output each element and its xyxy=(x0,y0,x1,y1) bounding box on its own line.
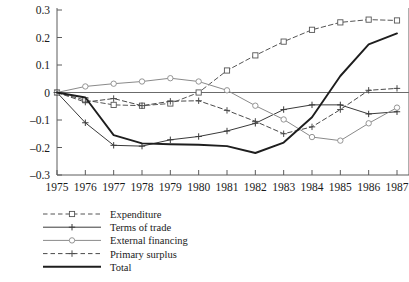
chart-canvas: 0.30.20.10–0.1–0.2–0.3197519761977197819… xyxy=(0,0,409,282)
marker-open-square xyxy=(69,211,74,216)
y-tick-label: 0.2 xyxy=(36,32,51,44)
marker-open-square xyxy=(224,68,229,73)
legend-item-total: Total xyxy=(43,262,132,273)
x-tick-label: 1977 xyxy=(102,181,125,193)
marker-open-square xyxy=(366,17,371,22)
marker-open-circle xyxy=(224,88,229,93)
series-terms_of_trade: ExpenditureTerms of tradeExternal financ… xyxy=(43,33,400,272)
marker-open-square xyxy=(253,53,258,58)
legend-item-external_financing: External financing xyxy=(43,235,189,246)
y-tick-label: 0.3 xyxy=(36,4,51,16)
x-tick-label: 1984 xyxy=(301,181,324,193)
y-tick-label: 0.1 xyxy=(36,59,51,71)
zero-reference-line: 1975197619771978197919801981198219831984… xyxy=(43,17,409,273)
series-external_financing: ExpenditureTerms of tradeExternal financ… xyxy=(43,33,400,272)
x-tick-label: 1978 xyxy=(131,181,154,193)
marker-open-circle xyxy=(338,138,343,143)
x-tick-label: 1976 xyxy=(74,181,97,193)
x-tick-label: 1980 xyxy=(187,181,210,193)
marker-open-circle xyxy=(111,81,116,86)
marker-open-circle xyxy=(168,76,173,81)
x-axis-ticks: 1975197619771978197919801981198219831984… xyxy=(43,17,409,273)
y-tick-label: –0.1 xyxy=(29,114,50,126)
legend-label: External financing xyxy=(110,235,189,246)
legend-label: Expenditure xyxy=(110,209,162,220)
marker-open-circle xyxy=(366,121,371,126)
marker-open-circle xyxy=(69,238,74,243)
line-chart-figure: 0.30.20.10–0.1–0.2–0.3197519761977197819… xyxy=(0,0,409,282)
marker-open-circle xyxy=(253,103,258,108)
chart-legend: ExpenditureTerms of tradeExternal financ… xyxy=(43,209,189,273)
marker-open-circle xyxy=(309,134,314,139)
y-tick-label: 0 xyxy=(44,87,50,99)
series-markers-expenditure: ExpenditureTerms of tradeExternal financ… xyxy=(43,17,400,273)
legend-label: Terms of trade xyxy=(110,222,171,233)
legend-item-expenditure: Expenditure xyxy=(43,209,162,220)
plot-axes: 0.30.20.10–0.1–0.2–0.3197519761977197819… xyxy=(29,4,409,273)
marker-open-square xyxy=(111,102,116,107)
legend-label: Total xyxy=(110,262,132,273)
series-markers-external_financing: ExpenditureTerms of tradeExternal financ… xyxy=(43,33,400,272)
marker-open-circle xyxy=(83,84,88,89)
legend-label: Primary surplus xyxy=(110,249,177,260)
series-expenditure: ExpenditureTerms of tradeExternal financ… xyxy=(43,17,400,273)
marker-open-square xyxy=(196,90,201,95)
legend-item-terms_of_trade: Terms of trade xyxy=(43,222,171,233)
y-axis-ticks: 0.30.20.10–0.1–0.2–0.3197519761977197819… xyxy=(29,4,409,273)
x-tick-label: 1987 xyxy=(386,181,409,193)
x-tick-label: 1985 xyxy=(329,181,352,193)
series-markers-terms_of_trade: ExpenditureTerms of tradeExternal financ… xyxy=(43,33,400,272)
x-tick-label: 1982 xyxy=(244,181,267,193)
x-tick-label: 1986 xyxy=(357,181,380,193)
marker-open-square xyxy=(281,39,286,44)
x-tick-label: 1979 xyxy=(159,181,182,193)
series-line-terms_of_trade xyxy=(57,93,397,147)
marker-open-circle xyxy=(394,105,399,110)
x-tick-label: 1975 xyxy=(46,181,69,193)
marker-open-square xyxy=(338,20,343,25)
series-total: ExpenditureTerms of tradeExternal financ… xyxy=(43,33,397,272)
marker-open-circle xyxy=(196,79,201,84)
y-tick-label: –0.3 xyxy=(29,169,50,181)
series-markers-primary_surplus: ExpenditureTerms of tradeExternal financ… xyxy=(43,33,400,272)
x-tick-label: 1983 xyxy=(272,181,295,193)
y-tick-label: –0.2 xyxy=(29,142,50,154)
marker-open-square xyxy=(309,27,314,32)
marker-open-circle xyxy=(139,79,144,84)
marker-open-circle xyxy=(281,117,286,122)
series-primary_surplus: ExpenditureTerms of tradeExternal financ… xyxy=(43,33,400,272)
marker-open-square xyxy=(394,18,399,23)
x-tick-label: 1981 xyxy=(216,181,239,193)
legend-item-primary_surplus: Primary surplus xyxy=(43,249,177,260)
